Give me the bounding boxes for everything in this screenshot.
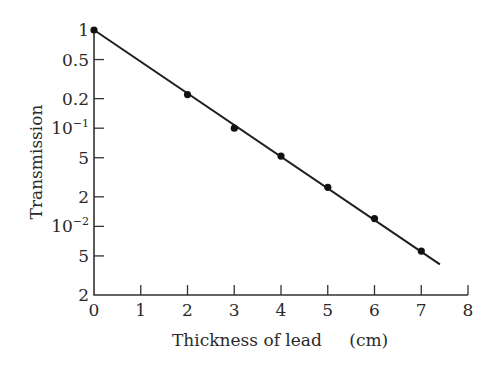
y-tick-label: 10−2 (51, 215, 89, 236)
x-tick-label: 3 (229, 300, 240, 320)
x-tick-label: 1 (135, 300, 146, 320)
data-point (90, 26, 97, 33)
x-tick-label: 6 (369, 300, 380, 320)
x-tick-label: 7 (416, 300, 427, 320)
axes-frame (94, 30, 468, 295)
y-tick-label: 1 (78, 20, 89, 40)
x-axis-title: Thickness of lead (cm) (172, 330, 388, 350)
data-point (231, 125, 238, 132)
x-axis-tick-labels: 012345678 (89, 300, 474, 320)
y-tick-label: 2 (78, 187, 89, 207)
data-point (418, 248, 425, 255)
x-tick-label: 4 (276, 300, 287, 320)
y-axis-title: Transmission (26, 105, 46, 220)
y-tick-label: 10−1 (51, 117, 89, 138)
y-tick-label: 5 (78, 246, 89, 266)
transmission-chart: 012345678 10.50.210−15210−252 Thickness … (0, 0, 501, 366)
x-axis-title-text: Thickness of lead (172, 330, 322, 350)
y-axis-tick-labels: 10.50.210−15210−252 (51, 20, 89, 305)
x-tick-label: 5 (322, 300, 333, 320)
y-tick-label: 0.2 (62, 89, 89, 109)
x-tick-label: 2 (182, 300, 193, 320)
y-tick-label: 2 (78, 285, 89, 305)
data-point (371, 215, 378, 222)
data-series (90, 26, 440, 264)
x-axis-ticks (141, 285, 468, 295)
x-tick-label: 8 (463, 300, 474, 320)
data-point (184, 91, 191, 98)
y-tick-label: 5 (78, 148, 89, 168)
x-tick-label: 0 (89, 300, 100, 320)
x-axis-unit: (cm) (349, 330, 388, 350)
y-axis-ticks (94, 60, 104, 256)
fit-line (94, 30, 440, 264)
data-point (324, 184, 331, 191)
y-tick-label: 0.5 (62, 50, 89, 70)
plot-area: 012345678 10.50.210−15210−252 (51, 20, 473, 320)
data-point (277, 153, 284, 160)
